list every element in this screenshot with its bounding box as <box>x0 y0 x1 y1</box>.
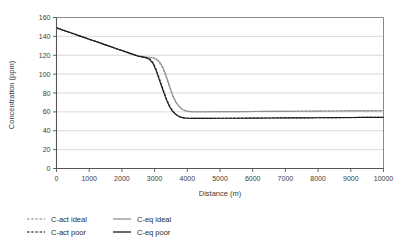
legend-label: C-eq ideal <box>137 215 172 224</box>
legend-label: C-eq poor <box>137 228 171 237</box>
x-tick-label-5000: 5000 <box>212 175 228 182</box>
y-tick-label-40: 40 <box>43 127 51 134</box>
legend-label: C-act ideal <box>51 215 87 224</box>
y-axis-title: Concentration (ppm) <box>7 60 16 129</box>
chart-svg: 0100020003000400050006000700080009000100… <box>0 0 414 246</box>
y-tick-label-120: 120 <box>39 52 51 59</box>
x-tick-label-4000: 4000 <box>180 175 196 182</box>
chart-figure: 0100020003000400050006000700080009000100… <box>0 0 414 246</box>
y-tick-label-80: 80 <box>43 90 51 97</box>
y-tick-label-160: 160 <box>39 14 51 21</box>
chart-background <box>0 0 414 246</box>
x-tick-label-3000: 3000 <box>147 175 163 182</box>
x-tick-label-6000: 6000 <box>245 175 261 182</box>
legend-label: C-act poor <box>51 228 87 237</box>
y-tick-label-0: 0 <box>47 165 51 172</box>
x-tick-label-8000: 8000 <box>310 175 326 182</box>
x-tick-label-10000: 10000 <box>374 175 394 182</box>
x-tick-label-2000: 2000 <box>114 175 130 182</box>
x-axis-title: Distance (m) <box>199 189 242 198</box>
y-tick-label-140: 140 <box>39 33 51 40</box>
x-tick-label-0: 0 <box>55 175 59 182</box>
x-tick-label-1000: 1000 <box>81 175 97 182</box>
x-tick-label-7000: 7000 <box>278 175 294 182</box>
x-tick-label-9000: 9000 <box>343 175 359 182</box>
y-tick-label-20: 20 <box>43 146 51 153</box>
y-tick-label-60: 60 <box>43 108 51 115</box>
y-tick-label-100: 100 <box>39 71 51 78</box>
